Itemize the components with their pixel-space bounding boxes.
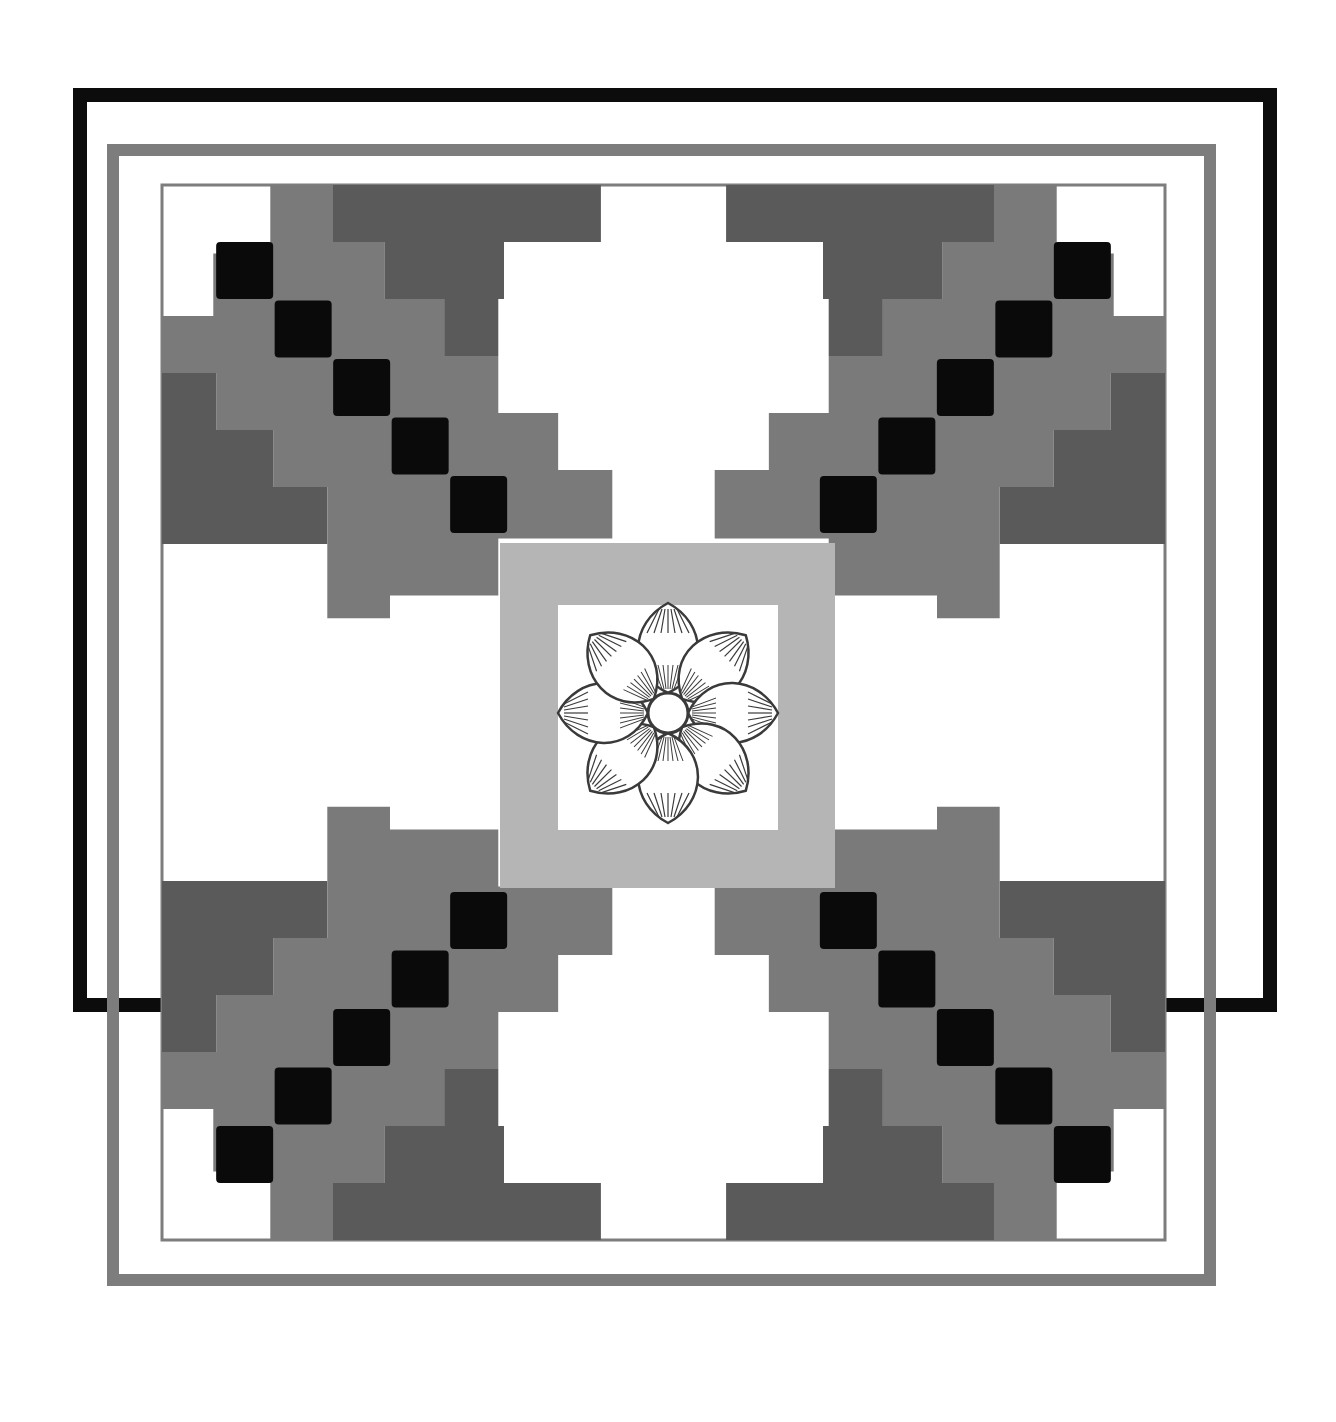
black-square	[450, 892, 507, 949]
black-square	[878, 418, 935, 475]
flower-center	[648, 693, 688, 733]
mid-step-block	[937, 807, 1000, 881]
black-square	[937, 359, 994, 416]
tile-artwork	[0, 0, 1336, 1422]
black-square	[333, 1009, 390, 1066]
black-square	[450, 476, 507, 533]
black-square	[820, 892, 877, 949]
black-square	[392, 418, 449, 475]
black-square	[216, 242, 273, 299]
black-square	[275, 1068, 332, 1125]
black-square	[216, 1126, 273, 1183]
black-square	[1054, 1126, 1111, 1183]
black-square	[275, 301, 332, 358]
flower-icon	[558, 603, 778, 823]
black-square	[995, 1068, 1052, 1125]
black-square	[820, 476, 877, 533]
black-square	[995, 301, 1052, 358]
mid-step-block	[327, 544, 390, 618]
black-square	[1054, 242, 1111, 299]
black-square	[937, 1009, 994, 1066]
black-square	[333, 359, 390, 416]
mid-step-block	[937, 544, 1000, 618]
black-square	[878, 951, 935, 1008]
mid-step-block	[327, 807, 390, 881]
black-square	[392, 951, 449, 1008]
